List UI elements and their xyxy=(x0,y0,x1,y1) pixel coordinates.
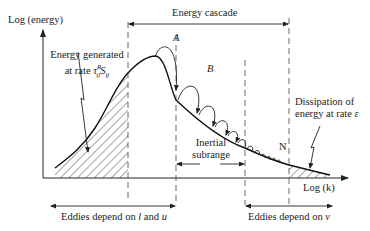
point-n-label: N xyxy=(279,141,287,153)
production-label: Energy generated at rate τRijSij xyxy=(48,49,126,81)
eddies-l-u-label: Eddies depend on l and u xyxy=(61,211,167,223)
point-b-label: B xyxy=(207,63,213,75)
production-label-line2: at rate τRijSij xyxy=(48,61,126,81)
dissipation-label: Dissipation of energy at rate ε xyxy=(295,96,359,120)
eddies-nu-label: Eddies depend on v xyxy=(248,211,330,223)
x-axis-label: Log (k) xyxy=(303,182,335,194)
point-a-label: A xyxy=(173,32,179,44)
inertial-subrange-label: Inertial subrange xyxy=(187,137,235,161)
y-axis-label: Log (energy) xyxy=(8,14,63,26)
energy-cascade-label: Energy cascade xyxy=(172,7,237,19)
production-label-line1: Energy generated xyxy=(48,49,126,61)
epsilon-symbol: ε xyxy=(355,108,359,119)
dissipation-pointer-arrow xyxy=(310,126,320,168)
energy-spectrum-diagram: Log (energy) Log (k) Energy cascade Ener… xyxy=(0,0,370,231)
